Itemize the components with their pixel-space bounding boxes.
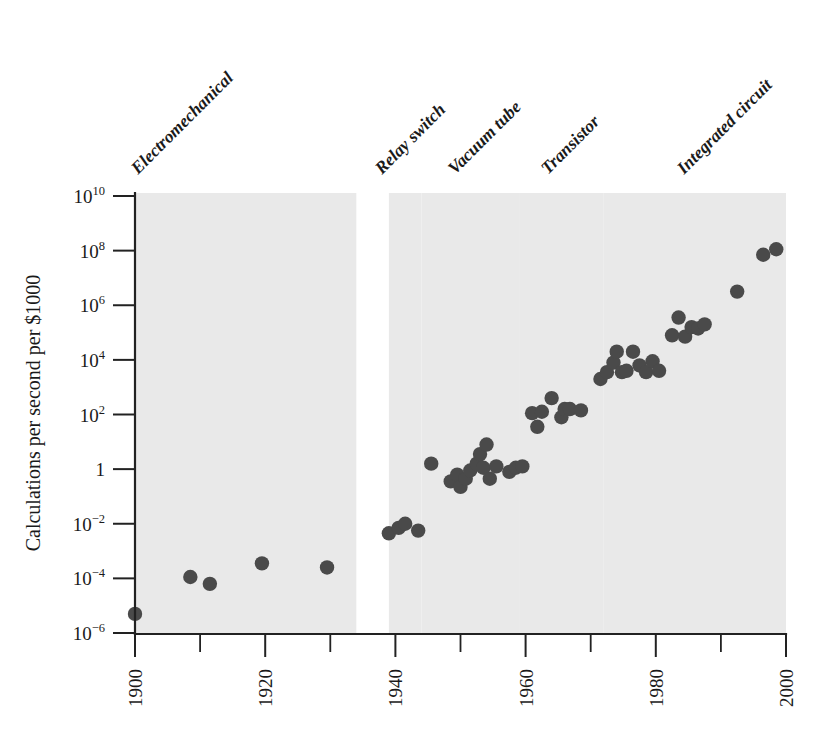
y-axis-ticks: 1010108106104102110−210−410−6	[73, 184, 135, 644]
scatter-plot: 1010108106104102110−210−410−6 1900192019…	[0, 0, 831, 735]
data-point	[411, 523, 425, 537]
x-tick-label: 2000	[776, 669, 797, 707]
x-axis-ticks: 190019201940196019802000	[125, 634, 797, 707]
era-label: Integrated circuit	[672, 74, 777, 179]
data-point	[626, 344, 640, 358]
data-point	[530, 420, 544, 434]
y-tick-label: 10−2	[73, 512, 105, 535]
y-tick-label: 104	[80, 348, 106, 371]
y-tick-label: 108	[80, 239, 105, 262]
x-tick-label: 1960	[516, 669, 537, 707]
era-label: Vacuum tube	[444, 96, 525, 177]
data-point	[203, 577, 217, 591]
data-point	[769, 242, 783, 256]
data-point	[574, 403, 588, 417]
y-tick-label: 106	[80, 293, 105, 316]
era-labels: ElectromechanicalRelay switchVacuum tube…	[126, 67, 777, 178]
y-tick-label: 1	[96, 459, 106, 480]
y-axis-title: Calculations per second per $1000	[22, 275, 45, 552]
y-tick-label: 10−6	[73, 621, 105, 644]
data-point	[183, 570, 197, 584]
data-point	[398, 517, 412, 531]
y-tick-label: 102	[80, 403, 105, 426]
data-point	[730, 284, 744, 298]
data-point	[483, 471, 497, 485]
data-point	[544, 391, 558, 405]
y-tick-label: 10−4	[73, 566, 106, 589]
data-point	[255, 556, 269, 570]
x-tick-label: 1940	[385, 669, 406, 707]
data-point	[652, 364, 666, 378]
era-label: Electromechanical	[126, 67, 237, 178]
data-point	[489, 459, 503, 473]
data-point	[697, 317, 711, 331]
era-label: Transistor	[537, 111, 604, 178]
data-point	[756, 248, 770, 262]
y-tick-label: 1010	[74, 184, 106, 207]
data-point	[535, 405, 549, 419]
x-tick-label: 1980	[646, 669, 667, 707]
era-band	[421, 193, 519, 634]
era-label: Relay switch	[370, 99, 449, 178]
x-tick-label: 1920	[255, 669, 276, 707]
era-band	[389, 193, 422, 634]
data-point	[610, 344, 624, 358]
era-bands	[135, 193, 786, 634]
data-point	[665, 328, 679, 342]
computing-power-figure: 1010108106104102110−210−410−6 1900192019…	[0, 0, 831, 735]
data-point	[671, 310, 685, 324]
data-point	[320, 560, 334, 574]
x-tick-label: 1900	[125, 669, 146, 707]
data-point	[515, 459, 529, 473]
data-point	[479, 437, 493, 451]
data-point	[424, 456, 438, 470]
data-point	[619, 364, 633, 378]
